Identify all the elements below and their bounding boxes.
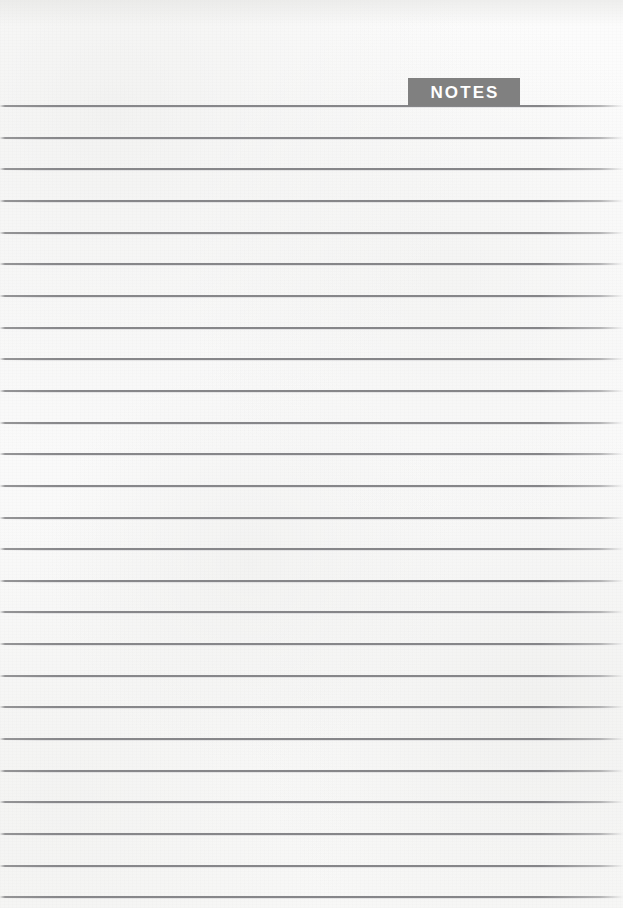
- rule-line: [0, 611, 623, 613]
- rule-line: [0, 358, 623, 360]
- rule-line: [0, 232, 623, 234]
- notes-banner: NOTES: [408, 78, 520, 106]
- rule-line: [0, 327, 623, 329]
- rule-line: [0, 263, 623, 265]
- rule-line: [0, 833, 623, 835]
- rule-line: [0, 865, 623, 867]
- rule-line: [0, 675, 623, 677]
- rule-line: [0, 200, 623, 202]
- rule-line: [0, 896, 623, 898]
- rule-line: [0, 548, 623, 550]
- rule-line: [0, 105, 623, 107]
- rule-line: [0, 295, 623, 297]
- rule-line: [0, 770, 623, 772]
- rule-line: [0, 738, 623, 740]
- rule-line: [0, 706, 623, 708]
- notes-page: NOTES: [0, 0, 623, 908]
- rule-line: [0, 422, 623, 424]
- rule-line: [0, 517, 623, 519]
- rule-line: [0, 485, 623, 487]
- rule-line: [0, 390, 623, 392]
- rule-line: [0, 580, 623, 582]
- rule-line: [0, 643, 623, 645]
- rule-line: [0, 137, 623, 139]
- rule-line: [0, 453, 623, 455]
- notes-banner-label: NOTES: [428, 84, 499, 101]
- rule-line: [0, 168, 623, 170]
- ruled-lines-group: [0, 0, 623, 908]
- rule-line: [0, 801, 623, 803]
